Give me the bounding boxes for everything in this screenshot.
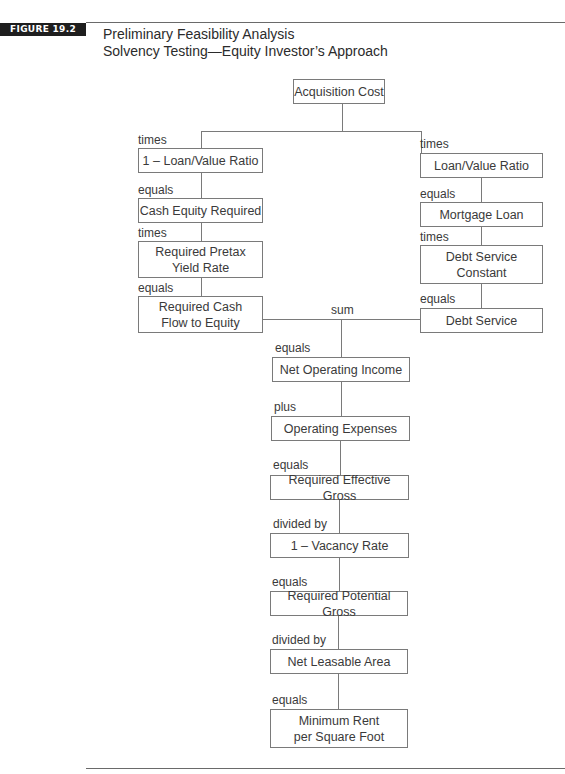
op-equals: equals	[138, 281, 173, 295]
node-label: Operating Expenses	[284, 421, 397, 437]
node-cash-equity-required: Cash Equity Required	[138, 198, 263, 223]
op-times: times	[138, 133, 167, 147]
op-equals: equals	[138, 183, 173, 197]
connector	[340, 441, 341, 475]
node-label: Acquisition Cost	[294, 84, 384, 100]
op-equals: equals	[420, 187, 455, 201]
node-label: Cash Equity Required	[140, 203, 262, 219]
op-equals: equals	[272, 693, 307, 707]
node-label: 1 – Vacancy Rate	[291, 538, 389, 554]
op-divided-by: divided by	[273, 517, 327, 531]
op-equals: equals	[420, 292, 455, 306]
connector	[201, 223, 202, 241]
figure-title-line1: Preliminary Feasibility Analysis	[103, 26, 294, 42]
node-label: Mortgage Loan	[439, 207, 523, 223]
node-required-cash-flow-to-equity: Required CashFlow to Equity	[138, 296, 263, 333]
node-label: Required Cash	[159, 299, 242, 315]
figure-badge: FIGURE 19.2	[0, 23, 86, 36]
top-rule	[86, 22, 565, 23]
node-ltv: Loan/Value Ratio	[420, 153, 543, 178]
split-connector	[201, 131, 421, 132]
connector	[201, 173, 202, 198]
node-label: Net Operating Income	[280, 362, 402, 378]
node-operating-expenses: Operating Expenses	[271, 416, 410, 441]
node-label: Loan/Value Ratio	[434, 158, 529, 174]
connector	[481, 178, 482, 203]
node-one-minus-vacancy: 1 – Vacancy Rate	[270, 533, 409, 558]
node-label: Debt Service	[446, 313, 518, 329]
node-label: 1 – Loan/Value Ratio	[143, 153, 259, 169]
node-label: per Square Foot	[294, 729, 384, 745]
connector	[481, 284, 482, 308]
op-equals: equals	[275, 341, 310, 355]
connector	[201, 278, 202, 296]
node-debt-service-constant: Debt ServiceConstant	[420, 245, 543, 284]
node-label: Minimum Rent	[299, 713, 380, 729]
connector	[481, 227, 482, 245]
node-label: Constant	[456, 265, 506, 281]
node-label: Required Potential Gross	[271, 588, 407, 620]
connector	[339, 500, 340, 534]
op-equals: equals	[273, 458, 308, 472]
bottom-rule	[86, 768, 565, 769]
figure-title-line2: Solvency Testing—Equity Investor’s Appro…	[103, 43, 388, 59]
node-debt-service: Debt Service	[420, 308, 543, 333]
connector	[341, 382, 342, 416]
node-required-effective-gross: Required Effective Gross	[270, 475, 409, 500]
node-label: Required Effective Gross	[271, 472, 408, 504]
op-times: times	[138, 226, 167, 240]
connector	[339, 558, 340, 591]
connector	[338, 616, 339, 649]
node-acquisition-cost: Acquisition Cost	[293, 79, 385, 104]
op-times: times	[420, 230, 449, 244]
node-label: Flow to Equity	[161, 315, 240, 331]
node-net-leasable-area: Net Leasable Area	[270, 649, 408, 674]
node-label: Yield Rate	[172, 260, 229, 276]
node-mortgage-loan: Mortgage Loan	[420, 202, 543, 227]
node-required-pretax-yield: Required PretaxYield Rate	[138, 241, 263, 278]
node-minimum-rent-per-sqft: Minimum Rentper Square Foot	[270, 709, 408, 748]
connector	[338, 674, 339, 709]
node-label: Debt Service	[446, 249, 518, 265]
connector	[342, 104, 343, 131]
node-net-operating-income: Net Operating Income	[272, 357, 410, 382]
node-required-potential-gross: Required Potential Gross	[270, 591, 408, 616]
op-plus: plus	[274, 400, 296, 414]
op-times: times	[420, 137, 449, 151]
connector	[341, 319, 342, 357]
op-divided-by: divided by	[272, 633, 326, 647]
node-one-minus-ltv: 1 – Loan/Value Ratio	[138, 148, 263, 173]
connector	[201, 131, 202, 148]
node-label: Required Pretax	[155, 244, 245, 260]
op-sum: sum	[331, 303, 354, 317]
node-label: Net Leasable Area	[288, 654, 391, 670]
